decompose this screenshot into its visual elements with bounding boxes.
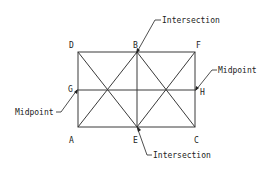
leader-arrow-icon [137, 127, 152, 155]
point-label-c: C [194, 136, 199, 145]
point-label-a: A [69, 136, 74, 145]
leader-arrow-icon [56, 90, 77, 112]
point-label-g: G [68, 85, 73, 94]
point-label-h: H [200, 88, 205, 97]
geometry-diagram: D B F G H A E C Intersection Midpoint Mi… [0, 0, 268, 181]
callout-label: Midpoint [218, 66, 257, 75]
callout-label: Intersection [153, 151, 211, 160]
callout-label: Intersection [162, 16, 220, 25]
point-label-d: D [69, 41, 74, 50]
callout-label: Midpoint [15, 108, 54, 117]
callout-bottom-intersection: Intersection [137, 126, 211, 160]
point-label-e: E [133, 136, 138, 145]
leader-arrow-icon [196, 70, 217, 90]
point-label-f: F [196, 41, 201, 50]
callout-top-intersection: Intersection [136, 16, 220, 54]
leader-arrow-icon [137, 20, 161, 52]
